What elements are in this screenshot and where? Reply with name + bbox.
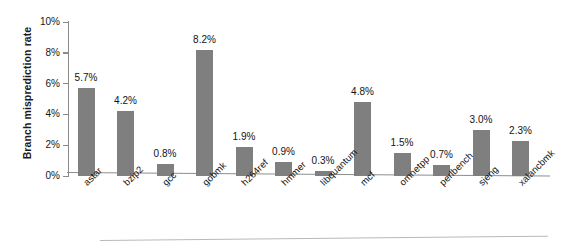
bar-value-label: 4.2% — [103, 96, 149, 106]
y-tick-label: 6% — [20, 79, 60, 89]
y-tick-label: 2% — [20, 140, 60, 150]
branch-misprediction-bar-chart: Branch misprediction rate 0%2%4%6%8%10% … — [0, 0, 569, 249]
bar — [78, 88, 95, 176]
y-tick-label: 10% — [20, 17, 60, 27]
bar-value-label: 3.0% — [458, 115, 504, 125]
plot-area: 5.7%4.2%0.8%8.2%1.9%0.9%0.3%4.8%1.5%0.7%… — [68, 22, 546, 176]
bar-value-label: 5.7% — [63, 73, 109, 83]
bar-value-label: 4.8% — [340, 87, 386, 97]
bar-value-label: 8.2% — [182, 35, 228, 45]
y-tick-label: 0% — [20, 171, 60, 181]
bar — [354, 102, 371, 176]
bar — [117, 111, 134, 176]
bar — [196, 50, 213, 176]
bar-value-label: 0.8% — [142, 149, 188, 159]
y-tick-label: 4% — [20, 109, 60, 119]
bar-value-label: 1.5% — [379, 138, 425, 148]
y-tick-label: 8% — [20, 48, 60, 58]
bar-value-label: 1.9% — [221, 132, 267, 142]
bar-value-label: 2.3% — [498, 126, 544, 136]
page-rule-line — [100, 236, 548, 241]
